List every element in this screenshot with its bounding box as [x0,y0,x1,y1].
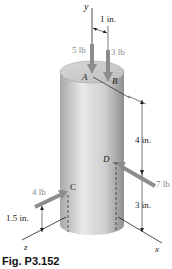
cylinder [60,61,124,235]
point-label-c: C [70,182,76,192]
force-label-7lb: 7 lb [156,179,170,189]
point-label-d: D [102,154,110,164]
figure-caption: Fig. P3.152 [2,255,59,267]
force-label-4lb: 4 lb [32,187,46,197]
point-label-a: A [81,72,88,82]
point-label-b: B [112,76,118,86]
y-axis-label: y [83,1,89,12]
dim-upper-height: 4 in. [135,135,151,145]
dim-top-offset: 1 in. [100,14,116,24]
dim-c-height: 1.5 in. [6,213,29,223]
force-label-5lb: 5 lb [72,45,86,55]
z-axis-label: z [23,242,28,252]
dim-lower-height: 3 in. [135,200,151,210]
x-axis [118,217,162,243]
x-axis-label: x [154,244,159,254]
force-label-3lb: 3 lb [111,47,125,57]
